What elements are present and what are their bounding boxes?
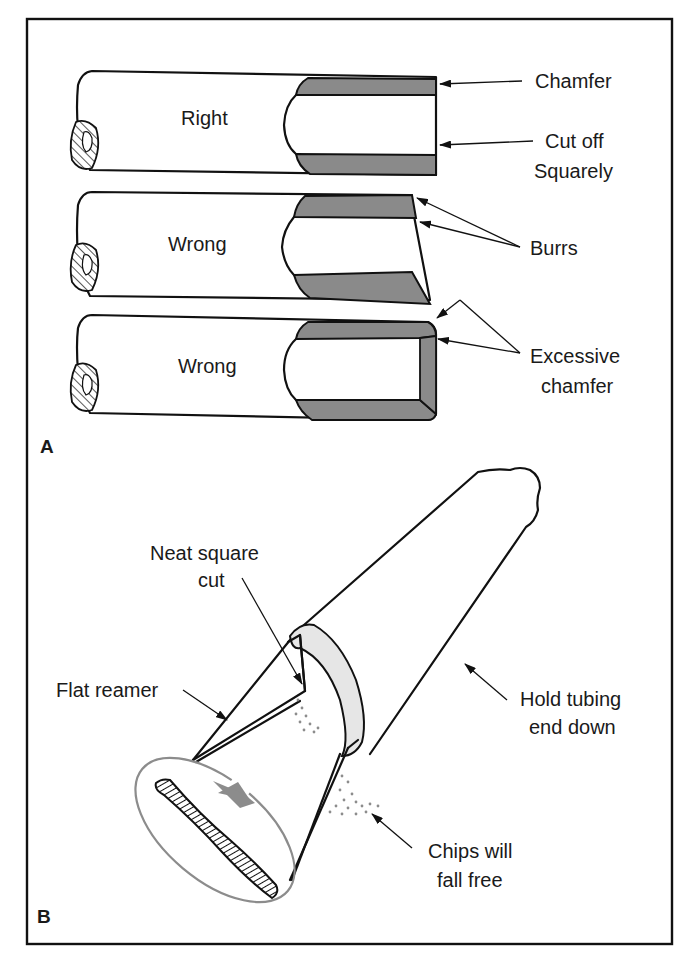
tube-right: Right [71,71,436,175]
panel-label-b: B [37,906,51,927]
tube-caption: Wrong [178,355,237,377]
tube-wrong-burrs: Wrong [71,192,430,304]
callout-chips-2: fall free [437,869,503,891]
chips-dots [295,699,380,816]
panel-label-a: A [40,436,54,457]
tube-caption: Right [181,107,228,129]
callout-excessive-1: Excessive [530,345,620,367]
tubing-cut-diagram: Right Wrong Wrong Chamfer Cut off Square… [0,0,696,962]
callout-flat-reamer: Flat reamer [56,679,159,701]
callout-chips-1: Chips will [428,840,512,862]
tube-caption: Wrong [168,233,227,255]
callout-hold-1: Hold tubing [520,688,621,710]
callout-burrs: Burrs [530,237,578,259]
callout-neat-1: Neat square [150,542,259,564]
panel-a-callouts: Chamfer Cut off Squarely Burrs Excessive… [417,70,620,397]
callout-excessive-2: chamfer [541,375,614,397]
callout-neat-2: cut [198,569,225,591]
callout-chamfer: Chamfer [535,70,612,92]
tube-wrong-chamfer: Wrong [71,315,436,420]
callout-hold-2: end down [529,716,616,738]
callout-cut-off-2: Squarely [534,160,613,182]
callout-cut-off-1: Cut off [545,130,604,152]
